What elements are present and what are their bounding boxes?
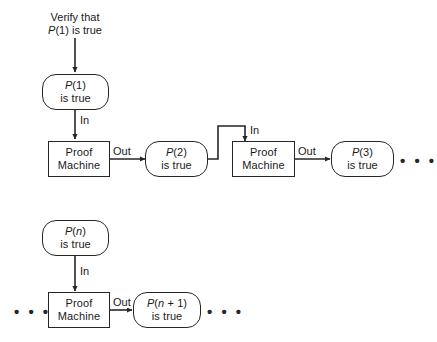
node-pn-line2: is true [60,238,91,251]
node-p3: P(3) is true [331,141,394,177]
node-pn1-line1: P(n + 1) [147,297,187,310]
wire-label-out-3: Out [112,296,132,308]
node-pn-line1: P(n) [65,225,86,238]
node-p3-line1: P(3) [352,146,373,159]
wire-label-in-3: In [79,265,90,277]
node-pn-arg-post: ) [82,225,86,237]
ellipsis-row2-right: • • • [207,304,244,319]
node-p3-line2: is true [347,159,378,172]
node-pn1-arg-post: + 1) [164,297,187,309]
node-proof-machine-2-line2: Machine [242,159,284,172]
node-p2-line2: is true [161,159,192,172]
node-pn1: P(n + 1) is true [133,292,201,328]
wire-label-in-1: In [79,114,90,126]
ellipsis-row2-left: • • • [14,304,51,319]
wire-label-in-2: In [249,124,260,136]
node-pn1-line2: is true [152,310,183,323]
node-p3-arg: (3) [359,146,373,158]
verify-caption-line1: Verify that [51,11,100,23]
node-p2-arg: (2) [173,146,187,158]
ellipsis-row1-right: • • • [400,153,437,168]
node-p2-line1: P(2) [166,146,187,159]
node-proof-machine-3-line1: Proof [66,297,93,310]
node-p1-arg: (1) [72,79,86,91]
wire-label-out-1: Out [112,145,132,157]
verify-caption: Verify that P(1) is true [25,11,125,37]
node-proof-machine-2-line1: Proof [250,146,277,159]
node-p1-line1: P(1) [65,79,86,92]
node-proof-machine-2: Proof Machine [232,141,295,177]
wire-label-out-2: Out [297,145,317,157]
node-p2: P(2) is true [145,141,208,177]
node-proof-machine-1: Proof Machine [48,141,110,177]
node-proof-machine-1-line2: Machine [58,159,100,172]
node-p1-line2: is true [60,92,91,105]
node-proof-machine-1-line1: Proof [66,146,93,159]
verify-caption-line2: (1) is true [55,24,101,36]
node-proof-machine-3-line2: Machine [58,310,100,323]
node-pn: P(n) is true [42,220,109,256]
node-p1: P(1) is true [42,74,109,110]
node-proof-machine-3: Proof Machine [48,292,110,328]
